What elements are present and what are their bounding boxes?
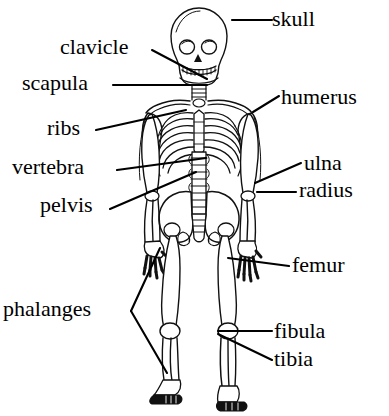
label-humerus: humerus — [281, 86, 357, 108]
label-pelvis: pelvis — [40, 194, 93, 216]
label-ulna: ulna — [304, 152, 342, 174]
label-radius: radius — [299, 179, 353, 201]
tibia-leader — [218, 334, 272, 360]
left-arm-bones — [142, 114, 168, 278]
label-vertebra: vertebra — [12, 156, 84, 178]
label-femur: femur — [292, 254, 345, 276]
label-clavicle: clavicle — [60, 36, 128, 58]
label-tibia: tibia — [274, 348, 313, 370]
ulna-leader — [255, 163, 301, 183]
label-skull: skull — [272, 8, 315, 30]
phalanges-leader-foot — [131, 311, 167, 373]
humerus-leader — [253, 96, 279, 112]
right-leg-bones — [217, 236, 247, 411]
label-scapula: scapula — [22, 72, 88, 94]
label-fibula: fibula — [274, 320, 325, 342]
femur-leader — [228, 258, 289, 266]
skeleton-diagram: skullclaviclescapulahumerusribsvertebrau… — [0, 0, 389, 416]
skull-bone — [171, 8, 227, 85]
label-ribs: ribs — [47, 117, 80, 139]
cervical-spine — [192, 86, 206, 100]
ribs-leader — [96, 110, 186, 130]
label-phalanges: phalanges — [3, 298, 91, 320]
